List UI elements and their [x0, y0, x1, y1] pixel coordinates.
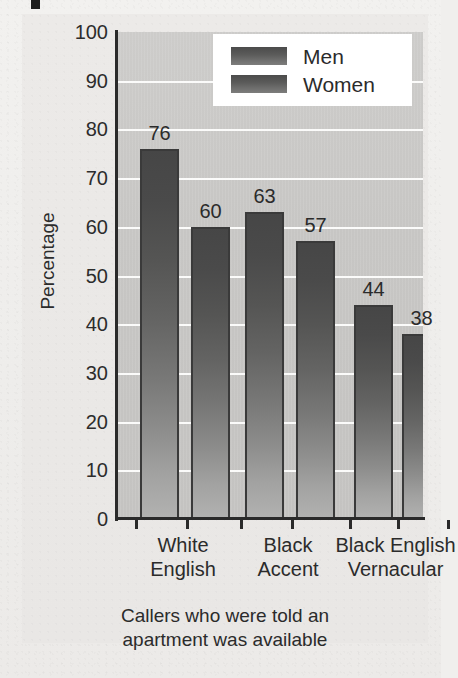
scan-artifact-mark [31, 0, 40, 9]
legend-item-men: Men [231, 46, 412, 67]
y-axis-title: Percentage [37, 171, 59, 351]
category-label-1-line-0: Black [226, 534, 350, 558]
value-label-38: 38 [394, 308, 449, 328]
legend-swatch-women [231, 75, 287, 93]
y-axis-line [115, 30, 118, 521]
category-label-2-line-1: Vernacular [334, 558, 458, 582]
category-label-2: Black EnglishVernacular [334, 534, 458, 581]
y-tick-label-10: 10 [40, 460, 108, 480]
y-tick-label-100: 100 [40, 22, 108, 42]
x-axis-category-labels: WhiteEnglishBlackAccentBlack EnglishVern… [115, 528, 427, 588]
value-label-60: 60 [183, 201, 238, 221]
value-label-44: 44 [346, 279, 401, 299]
caption-line-2: apartment was available [22, 628, 428, 652]
value-label-63: 63 [237, 186, 292, 206]
category-label-1-line-1: Accent [226, 558, 350, 582]
bar-women-3 [296, 241, 335, 519]
bar-women-1 [191, 227, 230, 519]
category-label-1: BlackAccent [226, 534, 350, 581]
legend-swatch-men [231, 47, 287, 65]
bar-women-5 [402, 334, 423, 519]
bar-men-2 [245, 212, 284, 519]
category-label-2-line-0: Black English [334, 534, 458, 558]
x-axis-tick-6 [447, 520, 450, 529]
value-label-76: 76 [132, 123, 187, 143]
caption-line-1: Callers who were told an [22, 604, 428, 628]
figure-caption: Callers who were told an apartment was a… [22, 604, 428, 652]
x-axis-line [115, 517, 425, 520]
legend-label-women: Women [303, 74, 375, 95]
bar-men-4 [354, 305, 393, 519]
legend-label-men: Men [303, 46, 344, 67]
value-label-57: 57 [288, 215, 343, 235]
bar-men-0 [140, 149, 179, 519]
bar-chart-figure: 1009080706050403020100 Percentage 766063… [22, 14, 428, 643]
y-tick-label-80: 80 [40, 119, 108, 139]
y-tick-label-30: 30 [40, 363, 108, 383]
chart-legend: Men Women [213, 34, 412, 106]
y-tick-label-0: 0 [40, 509, 108, 529]
legend-item-women: Women [231, 74, 412, 95]
y-tick-label-90: 90 [40, 71, 108, 91]
y-tick-label-20: 20 [40, 412, 108, 432]
